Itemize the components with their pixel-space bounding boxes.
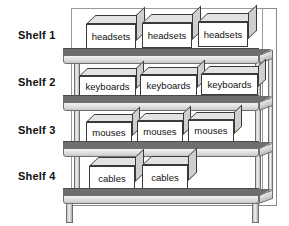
shelf-label-2: Shelf 2 bbox=[18, 76, 55, 88]
carton-cables-1: cables bbox=[89, 157, 135, 191]
carton-front-face: keyboards bbox=[140, 75, 197, 96]
carton-front-face: mouses bbox=[137, 121, 183, 143]
carton-top-face bbox=[201, 66, 267, 74]
post-right-rear bbox=[268, 50, 273, 195]
leg-left bbox=[66, 203, 73, 223]
carton-front-face: headsets bbox=[198, 22, 248, 47]
carton-keyboards-2: keyboards bbox=[140, 67, 197, 96]
shelf-label-4: Shelf 4 bbox=[18, 170, 55, 182]
shelf-front bbox=[63, 102, 259, 111]
shelf-front bbox=[63, 195, 259, 204]
carton-label: headsets bbox=[204, 30, 243, 40]
shelving-diagram: Shelf 1 headsets headsets headsets Shelf… bbox=[0, 0, 289, 226]
carton-label: cables bbox=[151, 173, 178, 183]
carton-label: headsets bbox=[92, 32, 131, 42]
carton-label: cables bbox=[98, 174, 125, 184]
carton-label: headsets bbox=[148, 31, 187, 41]
carton-keyboards-3: keyboards bbox=[201, 66, 258, 95]
carton-keyboards-1: keyboards bbox=[79, 68, 136, 97]
carton-label: keyboards bbox=[147, 81, 191, 91]
carton-label: mouses bbox=[194, 126, 227, 136]
carton-front-face: mouses bbox=[188, 120, 234, 142]
carton-front-face: keyboards bbox=[79, 76, 136, 97]
carton-mouses-3: mouses bbox=[188, 112, 234, 142]
shelf-front bbox=[63, 55, 259, 64]
carton-top-face bbox=[140, 67, 206, 75]
carton-label: keyboards bbox=[86, 82, 130, 92]
carton-headsets-1: headsets bbox=[86, 15, 136, 49]
carton-mouses-2: mouses bbox=[137, 113, 183, 143]
shelf-label-1: Shelf 1 bbox=[18, 29, 55, 41]
carton-front-face: cables bbox=[142, 165, 188, 190]
carton-cables-2: cables bbox=[142, 156, 188, 190]
carton-top-face bbox=[79, 68, 145, 76]
carton-headsets-3: headsets bbox=[198, 13, 248, 47]
carton-mouses-1: mouses bbox=[86, 114, 132, 144]
shelf-label-3: Shelf 3 bbox=[18, 124, 55, 136]
carton-headsets-2: headsets bbox=[142, 14, 192, 48]
carton-label: mouses bbox=[92, 128, 125, 138]
carton-front-face: keyboards bbox=[201, 74, 258, 95]
carton-label: mouses bbox=[143, 127, 176, 137]
carton-front-face: headsets bbox=[86, 24, 136, 49]
carton-front-face: headsets bbox=[142, 23, 192, 48]
carton-label: keyboards bbox=[208, 80, 252, 90]
leg-right bbox=[252, 203, 259, 223]
